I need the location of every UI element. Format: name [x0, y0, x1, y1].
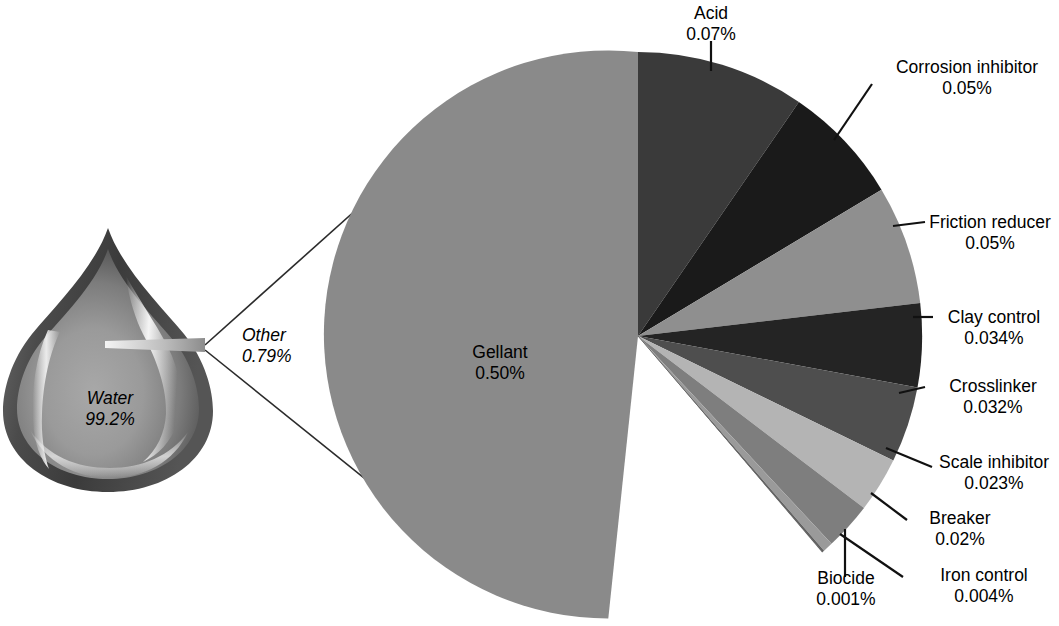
label-clay-control: Clay control 0.034%: [930, 307, 1058, 349]
label-other: Other 0.79%: [242, 325, 292, 367]
label-corrosion-inhibitor: Corrosion inhibitor 0.05%: [876, 57, 1058, 99]
label-other-name: Other: [242, 325, 292, 346]
pie-slice-gellant: [324, 50, 638, 618]
label-gellant-name: Gellant: [420, 342, 580, 363]
label-corrosion-inhibitor-value: 0.05%: [876, 78, 1058, 99]
pie-chart: [324, 50, 922, 618]
label-biocide-value: 0.001%: [790, 589, 902, 610]
label-corrosion-inhibitor-name: Corrosion inhibitor: [876, 57, 1058, 78]
label-crosslinker-value: 0.032%: [928, 397, 1058, 418]
label-scale-inhibitor-name: Scale inhibitor: [930, 452, 1058, 473]
label-breaker-name: Breaker: [905, 508, 1015, 529]
label-clay-control-name: Clay control: [930, 307, 1058, 328]
label-acid-name: Acid: [651, 3, 771, 24]
water-droplet-graphic: [3, 228, 213, 492]
label-clay-control-value: 0.034%: [930, 328, 1058, 349]
leader-breaker: [871, 493, 907, 520]
label-acid: Acid 0.07%: [651, 3, 771, 45]
label-friction-reducer-value: 0.05%: [922, 233, 1058, 254]
label-scale-inhibitor-value: 0.023%: [930, 473, 1058, 494]
label-crosslinker: Crosslinker 0.032%: [928, 376, 1058, 418]
label-water: Water 99.2%: [55, 388, 165, 430]
label-iron-control-name: Iron control: [917, 565, 1051, 586]
label-biocide-name: Biocide: [790, 568, 902, 589]
label-gellant: Gellant 0.50%: [420, 342, 580, 384]
label-friction-reducer: Friction reducer 0.05%: [922, 212, 1058, 254]
label-acid-value: 0.07%: [651, 24, 771, 45]
label-iron-control: Iron control 0.004%: [917, 565, 1051, 607]
label-biocide: Biocide 0.001%: [790, 568, 902, 610]
label-water-name: Water: [55, 388, 165, 409]
figure-canvas: Water 99.2% Other 0.79% Gellant 0.50% Ac…: [0, 0, 1059, 626]
label-water-value: 99.2%: [55, 409, 165, 430]
label-scale-inhibitor: Scale inhibitor 0.023%: [930, 452, 1058, 494]
label-other-value: 0.79%: [242, 346, 292, 367]
label-gellant-value: 0.50%: [420, 363, 580, 384]
label-crosslinker-name: Crosslinker: [928, 376, 1058, 397]
label-friction-reducer-name: Friction reducer: [922, 212, 1058, 233]
leader-corrosion-inhibitor: [834, 84, 872, 140]
label-iron-control-value: 0.004%: [917, 586, 1051, 607]
label-breaker: Breaker 0.02%: [905, 508, 1015, 550]
label-breaker-value: 0.02%: [905, 529, 1015, 550]
